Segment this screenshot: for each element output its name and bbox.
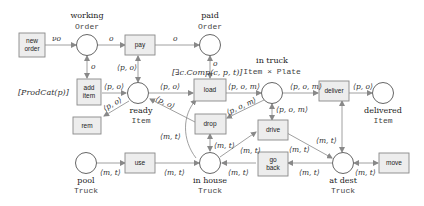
svg-text:⟨m, t⟩: ⟨m, t⟩ xyxy=(355,168,376,177)
svg-text:drive: drive xyxy=(266,126,280,133)
place-name: at dest xyxy=(329,176,357,185)
transition-drive: drive xyxy=(258,120,288,140)
svg-text:⟨m, t⟩: ⟨m, t⟩ xyxy=(228,168,249,177)
svg-text:⟨m, t⟩: ⟨m, t⟩ xyxy=(100,168,121,177)
transition-pay: pay xyxy=(125,35,155,55)
place-type: Truck xyxy=(198,186,222,195)
svg-text:o: o xyxy=(213,59,218,68)
svg-text:⟨p, o⟩: ⟨p, o⟩ xyxy=(101,95,123,113)
svg-text:order: order xyxy=(24,45,40,52)
svg-text:⟨m, t⟩: ⟨m, t⟩ xyxy=(160,132,181,141)
transition-use: use xyxy=(125,153,155,173)
svg-text:⟨p, o⟩: ⟨p, o⟩ xyxy=(154,94,176,111)
place-name: delivered xyxy=(364,106,402,115)
transition-go-back: go back xyxy=(258,152,288,176)
place-name: paid xyxy=(201,11,219,20)
svg-text:⟨p, o⟩: ⟨p, o⟩ xyxy=(353,82,373,91)
svg-text:move: move xyxy=(386,159,402,166)
svg-text:o: o xyxy=(173,34,178,43)
svg-text:drop: drop xyxy=(203,120,216,128)
place-at-dest: at dest Truck xyxy=(329,153,357,196)
svg-text:⟨m, t⟩: ⟨m, t⟩ xyxy=(214,141,235,150)
place-type: Item × Plate xyxy=(243,67,301,76)
svg-text:⟨p, o⟩: ⟨p, o⟩ xyxy=(104,82,124,91)
svg-text:⟨p, o, m⟩: ⟨p, o, m⟩ xyxy=(228,82,260,91)
svg-text:νo: νo xyxy=(52,34,62,43)
svg-text:deliver: deliver xyxy=(324,87,344,94)
svg-text:⟨p, o⟩: ⟨p, o⟩ xyxy=(160,82,180,91)
svg-text:use: use xyxy=(135,159,146,166)
svg-text:⟨m, t⟩: ⟨m, t⟩ xyxy=(316,136,337,145)
svg-text:⟨p, o, m⟩: ⟨p, o, m⟩ xyxy=(276,105,308,114)
transition-add-item: add item xyxy=(77,79,101,105)
place-ready: ready Item xyxy=(128,83,153,126)
place-name: in truck xyxy=(256,56,288,65)
svg-text:o: o xyxy=(109,34,114,43)
place-type: Order xyxy=(198,22,222,31)
guard-add-item: [ProdCat(p)] xyxy=(18,88,70,97)
svg-text:⟨m, t⟩: ⟨m, t⟩ xyxy=(289,145,310,154)
svg-text:new: new xyxy=(26,37,38,44)
place-working: working Order xyxy=(70,11,103,56)
svg-text:load: load xyxy=(204,86,217,93)
svg-text:item: item xyxy=(83,92,95,99)
place-paid: paid Order xyxy=(198,11,222,56)
place-type: Order xyxy=(75,22,99,31)
svg-text:add: add xyxy=(84,84,95,91)
guard-load: [∃c.Comp(c, p, t)] xyxy=(172,68,243,77)
place-pool: pool Truck xyxy=(74,153,98,196)
transition-rem: rem xyxy=(73,117,101,134)
place-name: pool xyxy=(77,176,95,185)
svg-text:⟨m, t⟩: ⟨m, t⟩ xyxy=(299,168,320,177)
place-type: Item xyxy=(373,116,392,125)
svg-text:⟨p, o, m⟩: ⟨p, o, m⟩ xyxy=(290,82,322,91)
place-type: Item xyxy=(131,116,150,125)
place-in-house: in house Truck xyxy=(193,153,227,196)
svg-text:o: o xyxy=(91,62,96,71)
transition-move: move xyxy=(379,153,409,173)
svg-text:pay: pay xyxy=(135,41,146,49)
svg-text:⟨p, o⟩: ⟨p, o⟩ xyxy=(117,63,137,72)
transition-new-order: new order xyxy=(19,33,45,57)
svg-text:go: go xyxy=(269,156,277,164)
transition-load: load xyxy=(194,79,226,101)
transition-drop: drop xyxy=(195,114,226,134)
svg-text:⟨m, t⟩: ⟨m, t⟩ xyxy=(240,146,261,155)
place-name: working xyxy=(70,11,103,20)
place-type: Truck xyxy=(74,186,98,195)
transition-deliver: deliver xyxy=(319,81,349,101)
petri-net-diagram: working Order paid Order ready Item in t… xyxy=(0,0,424,206)
svg-text:rem: rem xyxy=(81,122,92,129)
svg-text:back: back xyxy=(266,164,280,171)
place-type: Truck xyxy=(331,186,355,195)
place-name: ready xyxy=(130,106,153,115)
place-name: in house xyxy=(193,176,227,185)
svg-text:⟨m, t⟩: ⟨m, t⟩ xyxy=(164,168,185,177)
svg-text:⟨p, o, m⟩: ⟨p, o, m⟩ xyxy=(225,95,258,117)
